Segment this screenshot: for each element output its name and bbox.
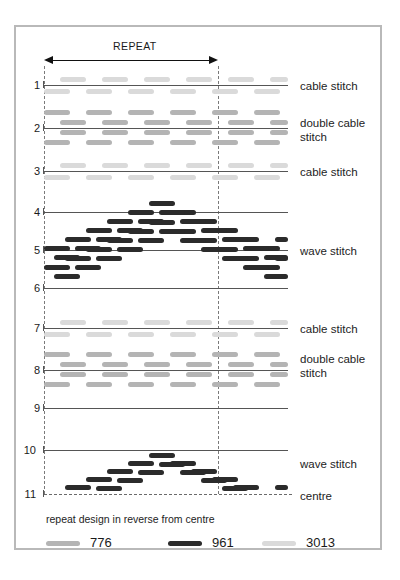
double-cable-row2-r4	[128, 140, 154, 145]
double-cable-row8-r2	[270, 362, 288, 367]
cable-row3-upper	[60, 163, 86, 168]
double-cable-row8-r2	[186, 362, 212, 367]
double-cable-row2-r2	[144, 120, 170, 125]
cable-row3-upper	[270, 163, 288, 168]
wave-row4-6	[86, 247, 112, 252]
centre-dashed-line	[44, 494, 292, 495]
double-cable-row8-r4	[44, 382, 70, 387]
double-cable-row8-r4	[170, 382, 196, 387]
row-number-9: 9	[22, 403, 40, 414]
double-cable-row2-r3	[60, 130, 86, 135]
wave-row4-6	[222, 237, 248, 242]
chart-canvas: REPEAT 1 2 3 4 5 6 7 8 9 10 11 cable sti…	[0, 0, 400, 580]
double-cable-row8-r3	[102, 372, 128, 377]
wave-row10-11	[159, 462, 185, 467]
cable-row1-lower	[44, 89, 70, 94]
wave-row10-11	[138, 470, 164, 475]
double-cable-row8-r1	[128, 352, 154, 357]
wave-row10-11	[180, 470, 206, 475]
stitch-label-row8: double cable stitch	[300, 352, 365, 380]
repeat-label: REPEAT	[113, 40, 157, 52]
row-rule-3	[44, 171, 288, 172]
row-tick-9	[43, 404, 44, 411]
cable-row7-upper	[60, 320, 86, 325]
row-tick-4	[43, 208, 44, 215]
wave-row4-6	[54, 274, 80, 279]
double-cable-row2-r2	[186, 120, 212, 125]
cable-row7-upper	[102, 320, 128, 325]
cable-row7-lower	[44, 332, 70, 337]
cable-row7-lower	[254, 332, 280, 337]
double-cable-row8-r2	[102, 362, 128, 367]
double-cable-row8-r2	[228, 362, 254, 367]
row-rule-6	[44, 288, 288, 289]
cable-row3-lower	[44, 175, 70, 180]
legend-swatch-776	[46, 541, 80, 546]
double-cable-row8-r1	[170, 352, 196, 357]
cable-row7-lower	[212, 332, 238, 337]
cable-row3-lower	[212, 175, 238, 180]
wave-row10-11	[96, 486, 122, 491]
cable-row7-lower	[170, 332, 196, 337]
legend-label-776: 776	[90, 535, 112, 550]
cable-row1-lower	[212, 89, 238, 94]
wave-row4-6	[243, 265, 269, 270]
wave-row10-11	[86, 477, 112, 482]
wave-row10-11	[117, 478, 143, 483]
double-cable-row2-r2	[102, 120, 128, 125]
double-cable-row8-r4	[128, 382, 154, 387]
cable-row3-upper	[228, 163, 254, 168]
wave-row4-6	[128, 210, 154, 215]
cable-row3-lower	[86, 175, 112, 180]
row-tick-1	[43, 81, 44, 88]
wave-row4-6	[222, 256, 248, 261]
wave-row4-6	[264, 274, 288, 279]
row-tick-7	[43, 324, 44, 331]
wave-row10-11	[128, 461, 154, 466]
cable-row1-upper	[228, 77, 254, 82]
row-number-2: 2	[22, 123, 40, 134]
double-cable-row2-r2	[270, 120, 288, 125]
legend-label-3013: 3013	[306, 535, 335, 550]
double-cable-row2-r4	[170, 140, 196, 145]
row-rule-1	[44, 85, 288, 86]
cable-row7-lower	[128, 332, 154, 337]
row-number-11: 11	[18, 489, 36, 500]
wave-row4-6	[180, 238, 206, 243]
double-cable-row8-r1	[254, 352, 280, 357]
wave-row4-6	[275, 237, 288, 242]
legend-swatch-961	[168, 541, 202, 546]
stitch-label-row10: wave stitch	[300, 457, 357, 471]
double-cable-row8-r3	[186, 372, 212, 377]
legend-label-961: 961	[212, 535, 234, 550]
wave-row4-6	[128, 229, 154, 234]
cable-row3-lower	[170, 175, 196, 180]
stitch-label-row7: cable stitch	[300, 322, 358, 336]
wave-row4-6	[117, 247, 143, 252]
stitch-label-row1: cable stitch	[300, 79, 358, 93]
double-cable-row8-r1	[44, 352, 70, 357]
row-rule-9	[44, 408, 288, 409]
double-cable-row2-r4	[254, 140, 280, 145]
wave-row4-6	[149, 201, 175, 206]
row-tick-2	[43, 124, 44, 131]
wave-row4-6	[107, 238, 133, 243]
row-rule-7	[44, 328, 288, 329]
wave-row4-6	[107, 219, 133, 224]
cable-row7-upper	[228, 320, 254, 325]
stitch-label-row3: cable stitch	[300, 165, 358, 179]
centre-label: centre	[300, 489, 332, 503]
cable-row3-upper	[144, 163, 170, 168]
cable-row1-lower	[86, 89, 112, 94]
cable-row1-lower	[170, 89, 196, 94]
cable-row1-upper	[270, 77, 288, 82]
double-cable-row2-r3	[102, 130, 128, 135]
wave-row4-6	[44, 265, 70, 270]
row-number-5: 5	[22, 245, 40, 256]
cable-row1-lower	[254, 89, 280, 94]
double-cable-row2-r1	[254, 110, 280, 115]
wave-row4-6	[180, 219, 206, 224]
double-cable-row8-r2	[144, 362, 170, 367]
double-cable-row8-r4	[86, 382, 112, 387]
wave-row4-6	[65, 237, 91, 242]
